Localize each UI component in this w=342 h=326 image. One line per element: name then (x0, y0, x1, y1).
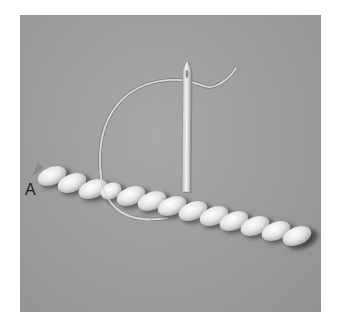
needle-icon (182, 60, 193, 193)
stitch-illustration (0, 0, 342, 326)
point-label: A (25, 182, 36, 198)
rope-stitch (35, 161, 321, 255)
